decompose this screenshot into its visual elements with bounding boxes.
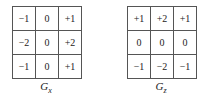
cell: 0 <box>174 31 197 55</box>
label-subscript: z <box>163 86 166 95</box>
cell: +1 <box>59 55 82 79</box>
cell: −1 <box>13 55 36 79</box>
table-row: −2 0 +2 <box>13 31 82 55</box>
cell: −2 <box>151 55 174 79</box>
cell: −1 <box>13 7 36 31</box>
cell: +1 <box>128 7 151 31</box>
cell: 0 <box>151 31 174 55</box>
label-subscript: x <box>48 86 52 95</box>
cell: −2 <box>13 31 36 55</box>
cell: +2 <box>59 31 82 55</box>
table-row: −1 −2 −1 <box>128 55 197 79</box>
kernel-gz: +1 +2 +1 0 0 0 −1 −2 −1 <box>127 6 197 79</box>
kernel-gx: −1 0 +1 −2 0 +2 −1 0 +1 <box>12 6 82 79</box>
cell: 0 <box>36 55 59 79</box>
cell: +1 <box>174 7 197 31</box>
cell: 0 <box>36 7 59 31</box>
kernel-gz-grid: +1 +2 +1 0 0 0 −1 −2 −1 <box>127 6 197 79</box>
table-row: +1 +2 +1 <box>128 7 197 31</box>
cell: −1 <box>128 55 151 79</box>
kernel-gz-label: Gz <box>126 80 196 95</box>
cell: +1 <box>59 7 82 31</box>
kernel-gx-grid: −1 0 +1 −2 0 +2 −1 0 +1 <box>12 6 82 79</box>
cell: −1 <box>174 55 197 79</box>
table-row: −1 0 +1 <box>13 55 82 79</box>
label-name: G <box>40 80 48 92</box>
table-row: 0 0 0 <box>128 31 197 55</box>
cell: 0 <box>36 31 59 55</box>
table-row: −1 0 +1 <box>13 7 82 31</box>
kernel-gx-label: Gx <box>11 80 81 95</box>
cell: +2 <box>151 7 174 31</box>
cell: 0 <box>128 31 151 55</box>
